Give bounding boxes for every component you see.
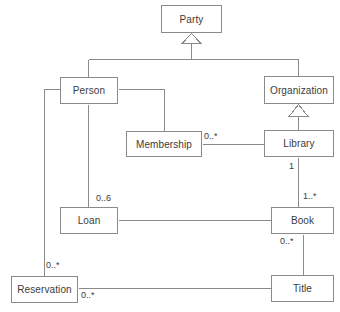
class-label-loan: Loan	[78, 215, 101, 226]
class-label-book: Book	[291, 215, 314, 226]
class-label-title: Title	[293, 283, 312, 294]
multiplicity-book-library-many: 1..*	[303, 191, 317, 201]
class-label-organization: Organization	[270, 85, 328, 96]
class-box-title[interactable]: Title	[271, 275, 334, 302]
multiplicity-person-reservation: 0..*	[46, 260, 60, 270]
multiplicity-reservation-title: 0..*	[81, 290, 95, 300]
class-label-library: Library	[283, 138, 314, 149]
generalization-party	[89, 44, 299, 78]
class-box-reservation[interactable]: Reservation	[11, 276, 78, 303]
association-person-membership	[119, 90, 165, 132]
class-box-organization[interactable]: Organization	[264, 76, 334, 104]
class-box-membership[interactable]: Membership	[126, 131, 202, 157]
class-box-library[interactable]: Library	[264, 130, 334, 157]
generalization-arrow-party	[182, 34, 201, 44]
association-person-reservation	[45, 90, 61, 277]
uml-class-diagram: Party Person Organization Membership Lib…	[0, 0, 340, 312]
class-label-party: Party	[180, 14, 204, 25]
multiplicity-book-title: 0..*	[280, 236, 294, 246]
class-label-reservation: Reservation	[17, 284, 71, 295]
class-label-membership: Membership	[136, 139, 192, 150]
class-label-person: Person	[73, 85, 105, 96]
multiplicity-library-book-one: 1	[289, 161, 294, 171]
class-box-book[interactable]: Book	[271, 207, 334, 234]
generalization-arrow-organization	[289, 105, 308, 117]
class-box-person[interactable]: Person	[60, 77, 118, 104]
multiplicity-membership-library: 0..*	[204, 131, 218, 141]
class-box-loan[interactable]: Loan	[60, 207, 118, 234]
class-box-party[interactable]: Party	[161, 5, 222, 33]
multiplicity-person-loan: 0..6	[96, 193, 111, 203]
